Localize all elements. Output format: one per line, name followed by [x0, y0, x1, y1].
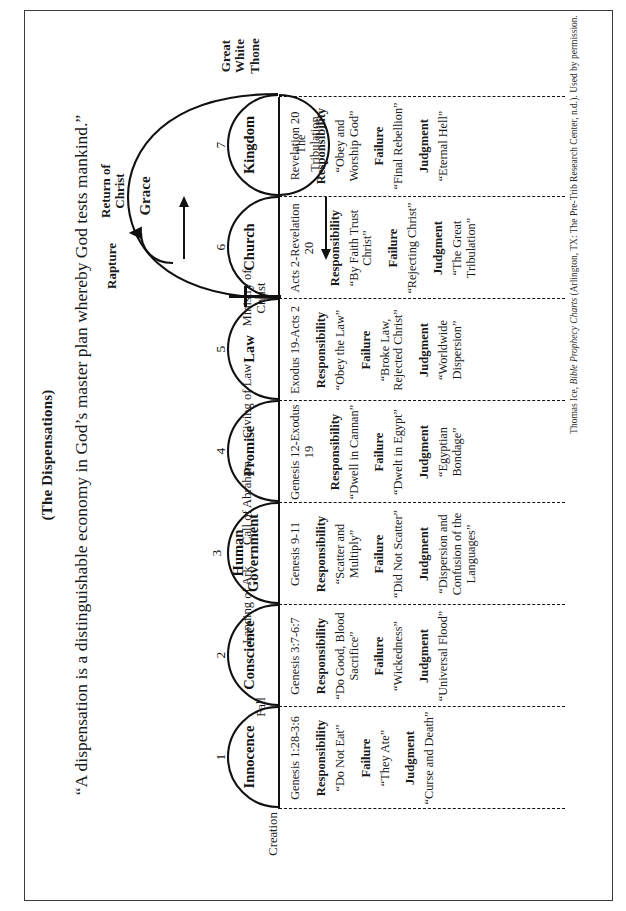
lane-divider-0 — [279, 808, 565, 809]
page-border-right — [612, 10, 613, 901]
scripture-reference: Genesis 3:7-6:7 — [289, 617, 303, 695]
lane-divider-4 — [279, 400, 565, 401]
judgment-label: Judgment — [417, 527, 432, 581]
page-border-top — [24, 10, 613, 11]
failure-label: Failure — [372, 127, 387, 166]
scripture-reference: Exodus 19-Acts 2 — [289, 306, 303, 394]
judgment-label: Judgment — [417, 323, 432, 377]
failure-value: “Dwelt in Egypt” — [392, 409, 406, 495]
dispensation-column-4: Genesis 12-Exodus 19 Responsibility “Dwe… — [285, 404, 465, 500]
scripture-reference: Genesis 9-11 — [289, 522, 303, 586]
responsibility-label: Responsibility — [328, 210, 343, 286]
overlay-label-tribulation: The Tribulation — [295, 109, 323, 179]
dispensations-chart: (The Dispensations) “A dispensation is a… — [33, 15, 593, 895]
dispensation-name-7: Kingdom — [242, 95, 257, 195]
chart-page: (The Dispensations) “A dispensation is a… — [0, 0, 626, 911]
failure-value: “They Ate” — [379, 730, 393, 786]
credit-work-title: Bible Prophecy Charts — [569, 298, 579, 385]
lane-divider-5 — [279, 298, 565, 299]
judgment-value: “Curse and Death” — [423, 712, 437, 805]
judgment-value: “Universal Flood” — [437, 611, 451, 702]
arrow-shaft — [325, 197, 327, 249]
event-label-creation: Creation — [267, 801, 281, 867]
scripture-reference: Acts 2-Revelation 20 — [289, 200, 317, 296]
rotated-chart-container: (The Dispensations) “A dispensation is a… — [33, 15, 593, 895]
event-label-call-of-abraham: Call of Abraham — [241, 461, 255, 545]
chart-title: (The Dispensations) — [39, 15, 56, 895]
failure-label: Failure — [359, 739, 374, 778]
judgment-label: Judgment — [403, 731, 418, 785]
judgment-label: Judgment — [417, 119, 432, 173]
responsibility-value: “Dwell in Cannan” — [348, 405, 362, 499]
failure-label: Failure — [372, 637, 387, 676]
judgment-label: Judgment — [431, 221, 446, 275]
judgment-value: “The Great Tribulation” — [451, 200, 479, 296]
judgment-value: “Worldwide Dispersion” — [437, 302, 465, 398]
arch-dispensation-3 — [178, 501, 279, 605]
judgment-value: “Egyptian Bondage” — [437, 404, 465, 500]
failure-label: Failure — [359, 331, 374, 370]
judgment-label: Judgment — [417, 425, 432, 479]
event-label-return-of-christ: Return of Christ — [99, 149, 128, 233]
arrow-shaft — [183, 207, 185, 259]
lane-divider-1 — [279, 706, 565, 707]
event-label-rapture: Rapture — [105, 229, 119, 303]
failure-value: “Final Rebellion” — [392, 102, 406, 189]
responsibility-value: “Obey the Law” — [334, 310, 348, 391]
event-label-landing-of-ark: Landing of Ark — [241, 563, 255, 647]
responsibility-label: Responsibility — [314, 618, 329, 694]
dispensation-number-5: 5 — [213, 299, 229, 399]
lane-divider-6 — [279, 196, 565, 197]
responsibility-value: “By Faith Trust Christ” — [348, 200, 376, 296]
scripture-reference: Genesis 12-Exodus 19 — [289, 404, 317, 500]
failure-value: “Wickedness” — [392, 621, 406, 691]
dispensation-number-2: 2 — [213, 605, 229, 705]
cross-icon — [229, 286, 281, 307]
failure-label: Failure — [372, 433, 387, 472]
dispensation-number-7: 7 — [213, 95, 229, 195]
responsibility-label: Responsibility — [314, 312, 329, 388]
failure-label: Failure — [372, 535, 387, 574]
cross-horizontal-bar — [244, 286, 247, 307]
dispensation-column-1: Genesis 1:28-3:6 Responsibility “Do Not … — [285, 710, 437, 806]
responsibility-label: Responsibility — [328, 414, 343, 490]
judgment-value: “Eternal Hell” — [437, 111, 451, 182]
arrow-head — [179, 196, 189, 207]
event-label-great-white-throne: Great White Thone — [219, 23, 262, 89]
dispensation-column-6: Acts 2-Revelation 20 Responsibility “By … — [285, 200, 478, 296]
lane-divider-2 — [279, 604, 565, 605]
dispensation-number-4: 4 — [213, 401, 229, 501]
scripture-reference: Genesis 1:28-3:6 — [289, 716, 303, 800]
failure-value: “Did Not Scatter” — [392, 510, 406, 598]
event-label-giving-of-law: Giving of Law — [241, 359, 255, 443]
responsibility-label: Responsibility — [314, 720, 329, 796]
responsibility-value: “Scatter and Multiply” — [334, 506, 362, 602]
lane-divider-3 — [279, 502, 565, 503]
dispensation-number-6: 6 — [213, 197, 229, 297]
dispensation-number-3: 3 — [209, 503, 225, 603]
responsibility-label: Responsibility — [314, 516, 329, 592]
credit-publisher: (Arlington, TX: The Pre-Trib Research Ce… — [569, 15, 579, 298]
dispensation-column-2: Genesis 3:7-6:7 Responsibility “Do Good,… — [285, 608, 451, 704]
rapture-arrow — [131, 209, 175, 267]
judgment-label: Judgment — [417, 629, 432, 683]
failure-value: “Rejecting Christ” — [406, 202, 420, 293]
dispensation-number-1: 1 — [213, 707, 229, 807]
dispensation-column-3: Genesis 9-11 Responsibility “Scatter and… — [285, 506, 478, 602]
responsibility-value: “Do Good, Blood Sacrifice” — [334, 608, 362, 704]
page-border-left — [24, 10, 25, 901]
source-credit: Thomas Ice, Bible Prophecy Charts (Arlin… — [569, 15, 579, 895]
lane-divider-7 — [279, 96, 565, 97]
judgment-value: “Dispersion and Confusion of the Languag… — [437, 506, 478, 602]
event-label-fall: Fall — [255, 669, 269, 745]
failure-value: “Broke Law, Rejected Christ” — [379, 302, 407, 398]
credit-author: Thomas Ice, — [569, 385, 579, 434]
dispensation-column-5: Exodus 19-Acts 2 Responsibility “Obey th… — [285, 302, 465, 398]
cross-vertical-bar — [229, 295, 281, 298]
failure-label: Failure — [386, 229, 401, 268]
responsibility-value: “Obey and Worship God” — [334, 98, 362, 194]
page-border-bottom — [24, 900, 613, 901]
arrow-head — [321, 249, 331, 260]
responsibility-value: “Do Not Eat” — [334, 725, 348, 792]
chart-subtitle: “A dispensation is a distinguishable eco… — [71, 15, 92, 895]
